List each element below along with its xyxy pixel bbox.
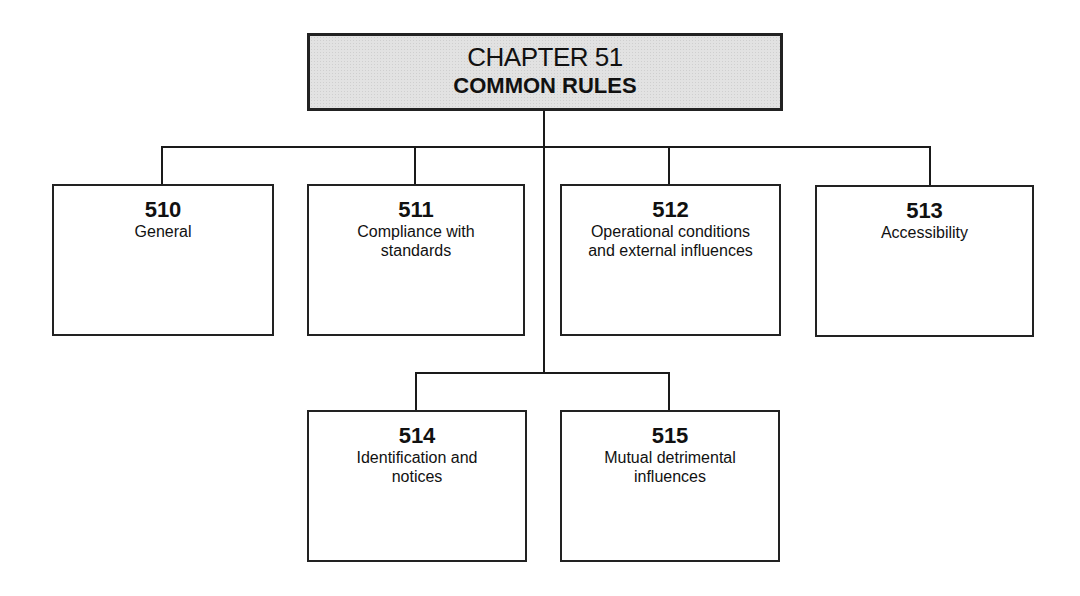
chapter-title-box: CHAPTER 51 COMMON RULES (307, 33, 783, 111)
section-number: 515 (562, 424, 778, 448)
section-number: 512 (562, 198, 779, 222)
section-box-515: 515 Mutual detrimental influences (560, 410, 780, 562)
section-label: Mutual detrimental influences (562, 448, 778, 486)
section-label: Accessibility (817, 223, 1032, 242)
connector-510 (161, 146, 163, 184)
connector-511 (414, 146, 416, 184)
section-number: 511 (309, 198, 523, 222)
section-label: Compliance with standards (309, 222, 523, 260)
chapter-number: CHAPTER 51 (310, 42, 780, 72)
section-box-510: 510 General (52, 184, 274, 336)
section-box-513: 513 Accessibility (815, 185, 1034, 337)
chapter-subtitle: COMMON RULES (310, 72, 780, 100)
connector-bottom-row (415, 372, 670, 374)
section-label: General (54, 222, 272, 241)
connector-514 (415, 372, 417, 410)
connector-515 (668, 372, 670, 410)
connector-513 (929, 146, 931, 185)
section-number: 514 (309, 424, 525, 448)
section-box-511: 511 Compliance with standards (307, 184, 525, 336)
connector-top-row (161, 146, 931, 148)
connector-512 (668, 146, 670, 184)
section-number: 510 (54, 198, 272, 222)
section-label: Identification and notices (309, 448, 525, 486)
section-number: 513 (817, 199, 1032, 223)
section-box-512: 512 Operational conditions and external … (560, 184, 781, 336)
section-label: Operational conditions and external infl… (562, 222, 779, 260)
section-box-514: 514 Identification and notices (307, 410, 527, 562)
